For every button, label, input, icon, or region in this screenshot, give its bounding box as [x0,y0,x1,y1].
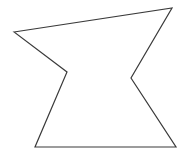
shape-canvas-svg [0,0,193,164]
canvas-background [0,0,193,164]
drawing-canvas [0,0,193,164]
